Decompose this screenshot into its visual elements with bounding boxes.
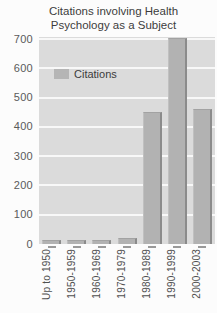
- y-tick-label-500: 500: [0, 91, 33, 103]
- x-tick-label-1970-1979: 1970-1979: [116, 249, 128, 309]
- plot-area: Citations: [39, 37, 215, 244]
- x-tick-mark: [73, 246, 81, 248]
- y-tick-label-300: 300: [0, 150, 33, 162]
- x-tick-label-1950-1959: 1950-1959: [66, 249, 78, 309]
- bar-1950-1959: [67, 240, 86, 244]
- gridline-700: [39, 38, 215, 40]
- legend-swatch-icon: [54, 69, 69, 79]
- legend-label: Citations: [74, 68, 117, 80]
- x-tick-mark: [198, 246, 206, 248]
- y-tick-label-700: 700: [0, 33, 33, 45]
- gridline-400: [39, 126, 215, 128]
- gridline-300: [39, 155, 215, 157]
- bar-1980-1989: [143, 112, 162, 244]
- bar-2000-2003: [193, 109, 212, 244]
- bar-1970-1979: [118, 238, 137, 244]
- x-tick-mark: [123, 246, 131, 248]
- y-tick-label-400: 400: [0, 120, 33, 132]
- x-tick-label-up-to-1950: Up to 1950: [41, 249, 53, 309]
- x-tick-label-1990-1999: 1990-1999: [166, 249, 178, 309]
- y-tick-label-600: 600: [0, 62, 33, 74]
- x-tick-label-2000-2003: 2000-2003: [191, 249, 203, 309]
- gridline-200: [39, 184, 215, 186]
- x-tick-label-1980-1989: 1980-1989: [141, 249, 153, 309]
- x-tick-mark: [148, 246, 156, 248]
- bar-1960-1969: [92, 240, 111, 244]
- bar-up-to-1950: [42, 240, 61, 244]
- x-tick-label-1960-1969: 1960-1969: [91, 249, 103, 309]
- gridline-500: [39, 97, 215, 99]
- chart-title-line1: Citations involving Health: [12, 4, 215, 18]
- legend: Citations: [54, 68, 117, 80]
- x-tick-mark: [48, 246, 56, 248]
- chart-title-line2: Psychology as a Subject: [12, 18, 215, 32]
- bar-1990-1999: [168, 38, 187, 244]
- y-tick-label-200: 200: [0, 179, 33, 191]
- y-tick-label-0: 0: [0, 238, 33, 250]
- chart-title: Citations involving Health Psychology as…: [12, 4, 215, 32]
- gridline-100: [39, 214, 215, 216]
- x-tick-mark: [173, 246, 181, 248]
- y-tick-label-100: 100: [0, 208, 33, 220]
- x-tick-mark: [98, 246, 106, 248]
- citations-bar-chart: Citations involving Health Psychology as…: [0, 0, 217, 313]
